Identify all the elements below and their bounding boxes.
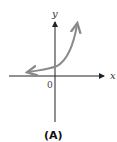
exponential-graph: y x 0 (A) [0, 0, 117, 142]
y-axis-label: y [51, 8, 58, 19]
exponential-curve [29, 25, 77, 72]
panel-label: (A) [44, 129, 63, 142]
x-axis-label: x [110, 70, 116, 81]
origin-label: 0 [47, 80, 53, 90]
